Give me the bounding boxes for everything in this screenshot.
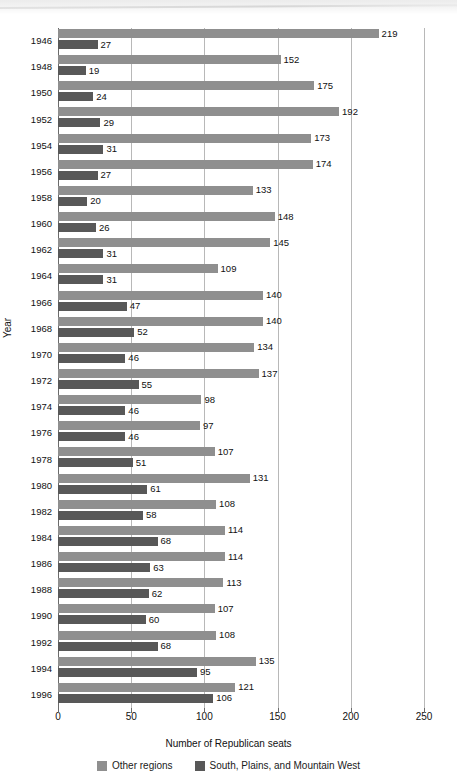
bar-other-regions: 140 [58,291,263,300]
x-tick-mark-200 [351,708,352,713]
bar-south-plains-mountain-west: 31 [58,145,103,154]
bar-other-regions: 148 [58,212,275,221]
bar-other-regions: 108 [58,631,216,640]
bar-value-label: 140 [266,290,282,300]
bar-south-plains-mountain-west: 55 [58,380,139,389]
x-tick-mark-150 [278,708,279,713]
y-tick-1948: 1948 [31,62,52,72]
bar-other-regions: 108 [58,500,216,509]
y-tick-1980: 1980 [31,481,52,491]
bar-value-label: 175 [317,81,333,91]
bar-south-plains-mountain-west: 62 [58,589,149,598]
bar-row: 9746 [58,420,424,446]
bar-value-label: 51 [136,458,147,468]
bar-value-label: 98 [204,395,215,405]
x-tick-mark-250 [424,708,425,713]
bar-row: 17524 [58,80,424,106]
bar-other-regions: 152 [58,55,281,64]
bar-rows: 2192715219175241922917331174271332014826… [58,28,424,708]
bar-south-plains-mountain-west: 63 [58,563,150,572]
bar-other-regions: 114 [58,552,225,561]
bar-south-plains-mountain-west: 27 [58,40,98,49]
bar-other-regions: 134 [58,343,254,352]
x-axis-tick-labels: 050100150200250 [0,712,457,726]
y-tick-1986: 1986 [31,559,52,569]
bar-other-regions: 174 [58,160,313,169]
bar-value-label: 133 [256,186,272,196]
bar-south-plains-mountain-west: 106 [58,694,213,703]
y-tick-1956: 1956 [31,167,52,177]
bar-row: 13161 [58,473,424,499]
bar-value-label: 61 [150,484,161,494]
x-tick-50: 50 [126,712,137,722]
legend-label: South, Plains, and Mountain West [210,760,360,771]
bar-value-label: 107 [218,447,234,457]
bar-value-label: 137 [262,369,278,379]
x-tick-mark-50 [131,708,132,713]
bar-value-label: 109 [221,264,237,274]
bar-value-label: 46 [128,406,139,416]
y-tick-1966: 1966 [31,298,52,308]
bar-south-plains-mountain-west: 24 [58,92,93,101]
bar-value-label: 97 [203,421,214,431]
x-axis-title: Number of Republican seats [0,738,457,749]
legend-label: Other regions [112,760,173,771]
bar-other-regions: 219 [58,29,379,38]
bar-row: 10858 [58,499,424,525]
bar-value-label: 31 [106,144,117,154]
legend-item: South, Plains, and Mountain West [195,760,360,771]
bar-value-label: 140 [266,316,282,326]
bar-value-label: 174 [316,160,332,170]
bar-other-regions: 114 [58,526,225,535]
bar-row: 11362 [58,577,424,603]
bar-value-label: 108 [219,500,235,510]
bar-south-plains-mountain-west: 29 [58,118,100,127]
bar-row: 17331 [58,133,424,159]
bar-other-regions: 121 [58,683,235,692]
y-tick-1946: 1946 [31,36,52,46]
bar-value-label: 29 [103,118,114,128]
y-axis-tick-labels: 1946194819501952195419561958196019621964… [0,28,56,708]
y-tick-1982: 1982 [31,507,52,517]
x-tick-200: 200 [342,712,359,722]
y-tick-1988: 1988 [31,585,52,595]
bar-value-label: 27 [101,40,112,50]
y-tick-1964: 1964 [31,271,52,281]
x-tick-100: 100 [196,712,213,722]
bar-south-plains-mountain-west: 51 [58,458,133,467]
bar-other-regions: 192 [58,107,339,116]
plot-area: 2192715219175241922917331174271332014826… [58,28,424,708]
y-tick-1962: 1962 [31,245,52,255]
bar-south-plains-mountain-west: 20 [58,197,87,206]
bar-value-label: 148 [278,212,294,222]
bar-other-regions: 173 [58,134,311,143]
bar-value-label: 24 [96,92,107,102]
bar-other-regions: 131 [58,474,250,483]
y-tick-1952: 1952 [31,115,52,125]
legend-swatch-south [195,761,205,771]
bar-value-label: 47 [130,301,141,311]
bar-value-label: 121 [238,683,254,693]
bar-value-label: 55 [142,380,153,390]
bar-value-label: 62 [152,589,163,599]
bar-value-label: 192 [342,107,358,117]
bar-value-label: 145 [273,238,289,248]
bar-value-label: 20 [90,197,101,207]
bar-row: 14826 [58,211,424,237]
y-tick-1976: 1976 [31,428,52,438]
bar-value-label: 131 [253,473,269,483]
bar-row: 13595 [58,656,424,682]
bar-other-regions: 175 [58,81,314,90]
bar-row: 13755 [58,368,424,394]
bar-row: 10760 [58,603,424,629]
bar-value-label: 107 [218,604,234,614]
x-tick-mark-100 [204,708,205,713]
bar-south-plains-mountain-west: 31 [58,275,103,284]
bar-south-plains-mountain-west: 27 [58,171,98,180]
bar-value-label: 106 [216,694,232,704]
bar-value-label: 19 [89,66,100,76]
bar-other-regions: 107 [58,604,215,613]
bar-other-regions: 135 [58,657,256,666]
y-tick-1974: 1974 [31,402,52,412]
bar-south-plains-mountain-west: 68 [58,642,158,651]
